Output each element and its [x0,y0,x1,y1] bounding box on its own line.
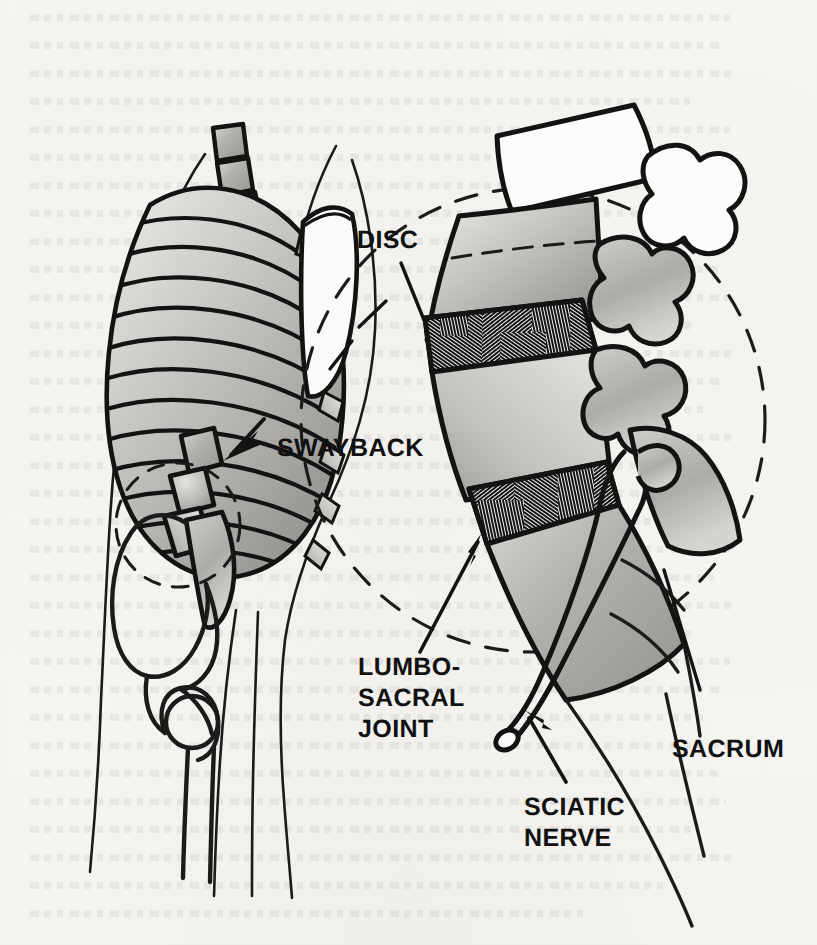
illustration-page: SWAYBACK DISC LUMBO- SACRAL JOINT SACRUM… [0,0,817,945]
label-disc: DISC [357,228,418,254]
lumbosacral-pointer [420,534,481,652]
label-lumbosacral-joint-line1: LUMBO- [358,655,460,681]
label-lumbosacral-joint-line3: JOINT [358,717,434,743]
label-sciatic-nerve-line1: SCIATIC [524,795,625,821]
left-panel-skeleton [90,124,376,898]
label-sciatic-nerve-line2: NERVE [524,826,612,852]
label-swayback: SWAYBACK [277,436,424,462]
upper-spinous-process [640,145,745,253]
sacrum-left [186,512,234,628]
anatomical-line-art [0,0,817,945]
sciatic-pointer [524,710,566,782]
upper-vertebral-body [497,105,656,212]
label-lumbosacral-joint-line2: SACRAL [358,686,465,712]
label-sacrum: SACRUM [672,737,784,763]
femur [162,687,219,882]
sacrum-body [487,505,684,700]
